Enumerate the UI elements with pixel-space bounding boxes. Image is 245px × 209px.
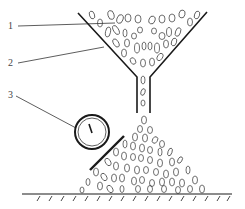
label-2: 2	[8, 57, 13, 68]
leader-line-1	[18, 23, 115, 26]
diagram-canvas: 1 2 3	[0, 0, 245, 209]
leader-line-3	[16, 96, 76, 128]
label-1: 1	[8, 20, 13, 31]
granules-funnel	[88, 9, 200, 106]
funnel	[78, 12, 207, 113]
label-3: 3	[8, 89, 13, 100]
gauge	[75, 115, 109, 149]
ground-hatching	[37, 196, 230, 201]
leader-line-2	[18, 47, 104, 63]
